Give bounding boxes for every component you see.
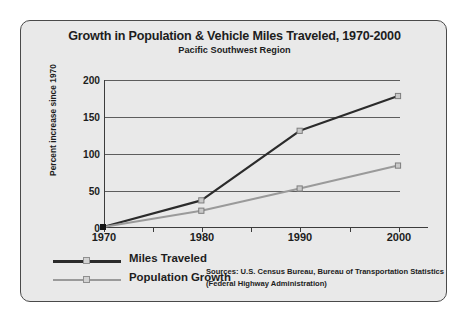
legend-marker-population-growth (83, 276, 90, 283)
chart-title: Growth in Population & Vehicle Miles Tra… (21, 29, 448, 43)
x-tick-label-1990: 1990 (272, 231, 328, 243)
sources-line-2: (Federal Highway Administration) (206, 278, 444, 290)
x-tick-label-1970: 1970 (76, 231, 132, 243)
y-tick-labels: 200 150 100 50 0 (62, 80, 100, 228)
y-tick-label-100: 100 (66, 149, 100, 160)
gridline-200 (105, 80, 400, 81)
title-block: Growth in Population & Vehicle Miles Tra… (21, 29, 448, 55)
x-tick-label-2000: 2000 (371, 231, 427, 243)
y-tick-label-200: 200 (66, 75, 100, 86)
gridline-50 (105, 191, 400, 192)
x-tick-mark-minor-1 (153, 228, 154, 232)
x-tick-mark-minor-3 (350, 228, 351, 232)
sources-line-1: Sources: U.S. Census Bureau, Bureau of T… (206, 266, 444, 278)
chart-subtitle: Pacific Southwest Region (21, 45, 448, 55)
y-axis-label: Percent increase since 1970 (48, 60, 58, 180)
sources-note: Sources: U.S. Census Bureau, Bureau of T… (206, 266, 444, 289)
chart-frame: Growth in Population & Vehicle Miles Tra… (20, 20, 447, 302)
legend-label-miles-traveled: Miles Traveled (129, 252, 207, 264)
y-tick-label-50: 50 (66, 186, 100, 197)
x-tick-mark-minor-2 (251, 228, 252, 232)
gridline-150 (105, 117, 400, 118)
figure: Growth in Population & Vehicle Miles Tra… (0, 0, 463, 326)
y-tick-label-150: 150 (66, 112, 100, 123)
x-tick-label-1980: 1980 (174, 231, 230, 243)
gridline-100 (105, 154, 400, 155)
plot-area (104, 80, 400, 228)
legend-marker-miles-traveled (83, 257, 90, 264)
